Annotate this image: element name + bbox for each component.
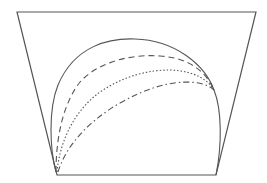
background <box>0 0 267 183</box>
diagram-canvas <box>0 0 267 183</box>
